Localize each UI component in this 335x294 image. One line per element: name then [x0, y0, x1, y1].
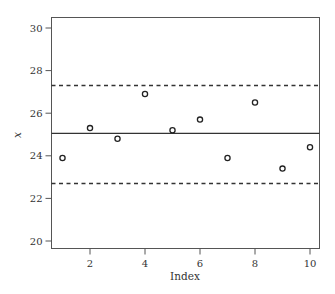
data-point	[60, 155, 65, 160]
data-point	[280, 166, 285, 171]
y-tick-label: 30	[30, 23, 43, 34]
x-tick-label: 2	[87, 258, 93, 269]
x-tick-label: 10	[304, 258, 317, 269]
data-point	[87, 126, 92, 131]
x-tick-label: 4	[142, 258, 148, 269]
x-axis: 246810	[87, 249, 317, 269]
data-point	[307, 145, 312, 150]
y-tick-label: 22	[30, 193, 43, 204]
data-point	[170, 128, 175, 133]
data-point	[252, 100, 257, 105]
data-point	[142, 91, 147, 96]
y-tick-label: 20	[30, 236, 43, 247]
y-tick-label: 24	[30, 150, 43, 161]
y-axis: 202224262830	[30, 23, 52, 247]
scatter-chart: 202224262830 246810 Index x	[0, 0, 335, 294]
data-point	[197, 117, 202, 122]
data-point	[225, 155, 230, 160]
y-tick-label: 26	[30, 108, 43, 119]
y-axis-title: x	[11, 132, 23, 138]
y-tick-label: 28	[30, 65, 43, 76]
data-points	[60, 91, 313, 171]
x-tick-label: 8	[252, 258, 258, 269]
data-point	[115, 136, 120, 141]
x-tick-label: 6	[197, 258, 203, 269]
x-axis-title: Index	[170, 270, 200, 282]
